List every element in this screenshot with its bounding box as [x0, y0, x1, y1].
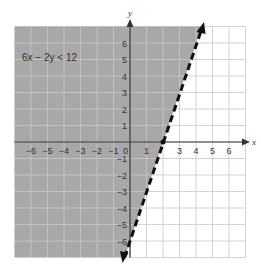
x-tick-label: 5	[210, 146, 215, 156]
y-tick-label: −5	[117, 220, 127, 230]
y-tick-label: 6	[122, 39, 127, 49]
x-tick-label: −6	[26, 146, 36, 156]
y-tick-label: 2	[122, 105, 127, 115]
x-tick-label: −4	[59, 146, 69, 156]
x-axis-label: x	[251, 137, 256, 147]
y-tick-label: −2	[117, 171, 127, 181]
x-tick-label: 3	[177, 146, 182, 156]
y-axis-arrow-icon	[127, 19, 134, 27]
y-tick-label: 1	[122, 121, 127, 131]
x-tick-label: 1	[144, 146, 149, 156]
y-tick-label: −4	[117, 204, 127, 214]
y-tick-label: −1	[117, 154, 127, 164]
x-axis-arrow-icon	[242, 139, 250, 146]
x-tick-label: −3	[75, 146, 85, 156]
x-intercept-point	[161, 140, 166, 145]
x-tick-label: 6	[226, 146, 231, 156]
y-tick-label: 4	[122, 72, 127, 82]
x-tick-label: −2	[92, 146, 102, 156]
y-axis-label: y	[127, 8, 132, 18]
inequality-graph: y x 6x − 2y < 12 0 −6−5−4−3−2−113456 654…	[0, 0, 261, 270]
y-tick-label: −3	[117, 187, 127, 197]
line-arrow-bottom-icon	[120, 251, 129, 263]
y-tick-label: −6	[117, 237, 127, 247]
y-tick-label: 5	[122, 55, 127, 65]
y-tick-label: 3	[122, 88, 127, 98]
x-tick-label: −5	[42, 146, 52, 156]
x-tick-label: 4	[193, 146, 198, 156]
inequality-label: 6x − 2y < 12	[22, 52, 77, 63]
